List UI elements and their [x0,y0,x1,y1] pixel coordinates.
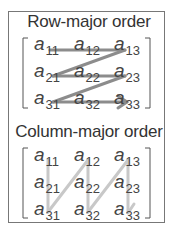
matrix-element: a13 [114,145,140,164]
matrix-element: a23 [114,172,140,191]
matrix-element: a31 [34,199,60,218]
matrix-element: a33 [114,199,140,218]
matrix-element: a21 [34,172,60,191]
matrix-element: a12 [74,145,100,164]
matrix-element: a22 [74,61,100,80]
matrix-element: a31 [34,88,60,107]
matrix-element: a22 [74,172,100,191]
matrix-element: a12 [74,34,100,53]
matrix-element: a11 [34,34,59,53]
matrix-element: a13 [114,34,140,53]
matrix-element: a21 [34,61,60,80]
matrix-element: a33 [114,88,140,107]
matrix-element: a32 [74,88,100,107]
matrix-element: a11 [34,145,59,164]
matrix-element: a23 [114,61,140,80]
matrix-element: a32 [74,199,100,218]
